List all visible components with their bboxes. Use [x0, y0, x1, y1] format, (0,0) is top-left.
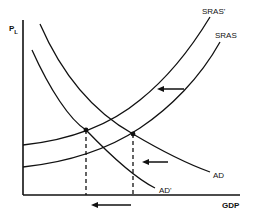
ad-prime-curve — [32, 50, 155, 188]
ad-curve — [40, 24, 210, 172]
y-axis-label: PL — [9, 24, 18, 35]
sras-prime-curve — [23, 17, 210, 145]
ad-shift-arrow-icon — [142, 159, 168, 165]
sras-curve — [23, 42, 220, 167]
sras-shift-arrow-icon — [157, 86, 184, 92]
x-axis-label: GDP — [222, 201, 240, 210]
sras-prime-label: SRAS' — [202, 7, 226, 16]
gdp-decrease-arrow-icon — [91, 202, 131, 208]
ad-prime-label: AD' — [159, 186, 172, 195]
sras-label: SRAS — [215, 31, 237, 40]
ad-as-diagram: PL GDP SRAS' SRAS AD AD' — [0, 0, 264, 212]
ad-label: AD — [213, 171, 224, 180]
